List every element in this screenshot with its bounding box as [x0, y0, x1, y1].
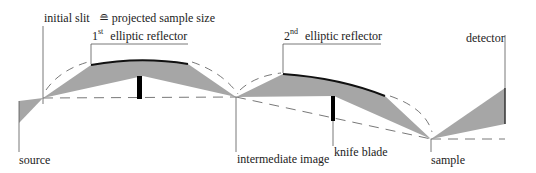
second-reflector-superscript: nd — [290, 27, 298, 36]
slit-blade-1 — [137, 76, 142, 99]
first-reflector-label: 1st elliptic reflector — [92, 30, 187, 42]
second-reflector-text: elliptic reflector — [305, 29, 382, 43]
sample-label: sample — [431, 154, 465, 166]
detector-label: detector — [466, 32, 505, 44]
intermediate-image-label: intermediate image — [237, 153, 329, 165]
knife-blade — [331, 96, 335, 121]
projected-sample-size-text: projected sample size — [112, 11, 215, 25]
detector-beam — [431, 88, 505, 139]
source-beam — [19, 98, 43, 123]
beam-path-drawing — [0, 0, 536, 173]
first-reflector-text: elliptic reflector — [110, 29, 187, 43]
optics-diagram: initial slit ≘ projected sample size 1st… — [0, 0, 536, 173]
knife-blade-label: knife blade — [334, 146, 388, 158]
first-reflector-superscript: st — [98, 27, 103, 36]
corresponds-symbol: ≘ — [99, 11, 109, 25]
initial-slit-text: initial slit — [44, 11, 90, 25]
second-reflector-label: 2nd elliptic reflector — [284, 30, 382, 42]
source-label: source — [19, 154, 50, 166]
initial-slit-label: initial slit ≘ projected sample size — [44, 12, 215, 24]
second-mirror-label-bracket — [283, 44, 381, 73]
